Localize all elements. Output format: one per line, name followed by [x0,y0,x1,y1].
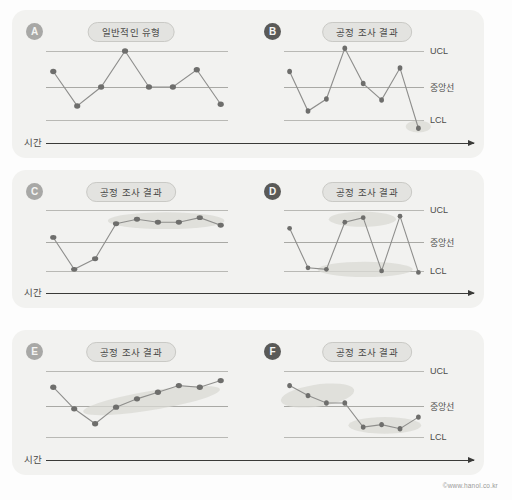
plot-area-b: UCL 중앙선 LCL [284,44,424,130]
axis-label-c: 시간 [24,285,42,299]
panel-b: B 공정 조사 결과 UCL 중앙선 LCL [250,10,484,158]
panel-badge-e: E [26,343,43,360]
panel-title-f: 공정 조사 결과 [322,342,412,362]
series-f [284,364,424,447]
panel-badge-a: A [26,23,43,40]
series-b [284,44,424,130]
panel-f: F 공정 조사 결과 UCL 중앙선 LCL [250,330,484,475]
ucl-label-d: UCL [430,205,448,215]
panel-title-a: 일반적인 유형 [88,22,175,42]
time-axis-row-2 [46,293,474,294]
panel-badge-c: C [26,183,43,200]
plot-area-f: UCL 중앙선 LCL [284,364,424,447]
time-axis-row-3 [46,460,474,461]
panel-e: E 공정 조사 결과 시간 [12,330,250,475]
lcl-label-b: LCL [430,115,447,125]
panel-badge-b: B [264,23,281,40]
series-c [46,204,228,280]
axis-label-a: 시간 [24,135,42,149]
center-label-f: 중앙선 [430,399,454,412]
copyright-notice: ©www.hanol.co.kr [443,482,498,489]
center-label-b: 중앙선 [430,81,454,94]
plot-area-d: UCL 중앙선 LCL [284,204,424,280]
lcl-label-d: LCL [430,266,447,276]
plot-area-c [46,204,228,280]
card-row-3: E 공정 조사 결과 시간 F 공정 조사 결과 UCL 중앙선 L [12,330,484,475]
panel-title-e: 공정 조사 결과 [86,342,176,362]
series-d [284,204,424,280]
time-axis-row-1 [46,143,474,144]
card-row-2: C 공정 조사 결과 시간 D 공정 조사 결과 UCL 중앙선 L [12,170,484,308]
panel-d: D 공정 조사 결과 UCL 중앙선 LCL [250,170,484,308]
lcl-label-f: LCL [430,432,447,442]
panel-badge-d: D [264,183,281,200]
panel-badge-f: F [264,343,281,360]
axis-label-e: 시간 [24,452,42,466]
plot-area-a [46,44,228,130]
plot-area-e [46,364,228,447]
figure-container: A 일반적인 유형 시간 B 공정 조사 결과 UCL 중앙선 LC [0,0,512,500]
panel-c: C 공정 조사 결과 시간 [12,170,250,308]
series-e [46,364,228,447]
card-row-1: A 일반적인 유형 시간 B 공정 조사 결과 UCL 중앙선 LC [12,10,484,158]
panel-a: A 일반적인 유형 시간 [12,10,250,158]
center-label-d: 중앙선 [430,236,454,249]
series-a [46,44,228,130]
panel-title-d: 공정 조사 결과 [322,182,412,202]
panel-title-b: 공정 조사 결과 [322,22,412,42]
panel-title-c: 공정 조사 결과 [86,182,176,202]
ucl-label-b: UCL [430,46,448,56]
ucl-label-f: UCL [430,366,448,376]
